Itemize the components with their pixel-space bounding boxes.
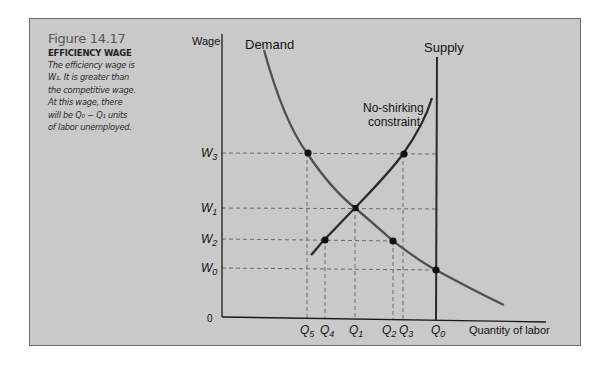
efficiency-wage-chart: Wage Demand Supply No-shirking constrain… — [0, 0, 610, 370]
y-axis-label: Wage — [192, 35, 220, 47]
point-q2-w2 — [389, 237, 396, 244]
demand-label: Demand — [245, 37, 294, 52]
point-q0-w0 — [432, 266, 439, 273]
w2-label: W2 — [201, 232, 217, 248]
nsc-label-line1: No-shirking — [363, 101, 424, 115]
supply-line — [436, 57, 437, 321]
w0-guide — [222, 268, 436, 270]
w1-guide — [222, 208, 436, 209]
supply-label: Supply — [424, 40, 464, 55]
x-axis — [222, 317, 546, 322]
point-q5-w3 — [304, 149, 311, 156]
point-q3-w3 — [400, 150, 407, 157]
q1-label: Q1 — [349, 323, 363, 339]
w3-label: W3 — [201, 146, 217, 162]
x-tick-labels: Q5 Q4 Q1 Q2 Q3 Q0 — [300, 323, 445, 339]
q3-label: Q3 — [399, 323, 413, 339]
nsc-label-line2: constraint — [368, 115, 421, 129]
point-q1-w1 — [353, 205, 359, 211]
point-q4-w2 — [321, 236, 328, 243]
q5-label: Q5 — [300, 323, 315, 339]
q2-label: Q2 — [382, 323, 396, 339]
y-tick-labels: W3 W1 W2 W0 — [201, 146, 217, 277]
q4-label: Q4 — [320, 323, 334, 339]
x-axis-label: Quantity of labor — [469, 324, 550, 336]
q0-label: Q0 — [431, 323, 445, 339]
w0-label: W0 — [201, 261, 217, 277]
origin-label: 0 — [207, 313, 213, 324]
w1-label: W1 — [201, 201, 217, 217]
